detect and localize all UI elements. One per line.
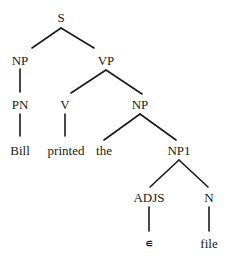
leaf-bill: Bill [10,144,30,157]
node-np-right: NP [132,98,149,111]
leaf-the: the [96,144,112,157]
edge-np1-n [179,160,208,187]
node-vp: VP [98,54,115,67]
node-n: N [204,191,213,204]
edge-s-np_l [32,28,61,48]
node-np-left: NP [12,54,29,67]
edge-vp-np_r [106,70,142,94]
node-s: S [57,11,64,24]
node-np1: NP1 [167,144,190,157]
leaf-printed: printed [48,144,85,157]
parse-tree-edges [0,0,228,261]
edge-np1-adjs [150,160,179,187]
edge-np_r-np1 [140,114,176,140]
node-v: V [60,98,69,111]
node-adjs: ADJS [133,191,164,204]
edge-np_r-the [104,114,140,140]
edge-s-vp [61,28,94,48]
node-pn: PN [12,98,29,111]
edge-vp-v [71,70,106,93]
leaf-epsilon: ∊ [145,238,153,249]
leaf-file: file [200,237,217,250]
